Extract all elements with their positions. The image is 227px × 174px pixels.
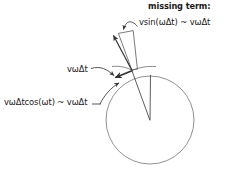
tangent-line-right (132, 66, 156, 70)
tangent-line-left (112, 66, 132, 70)
leader-to-tangent-vector (91, 67, 114, 75)
velocity-vector-arrow (114, 36, 133, 71)
diagram-canvas: missing term: vsin(ωΔt) ~ vωΔt vωΔt vωΔt… (0, 0, 227, 174)
vertical-radius-line (150, 75, 151, 120)
tangent-vector-label: vωΔt (67, 65, 88, 75)
missing-term-heading: missing term: (148, 2, 210, 11)
tangential-component-arrow (116, 71, 133, 78)
leader-to-sin-term (124, 22, 138, 30)
cos-term-label: vωΔtcos(ωt) ~ vωΔt (4, 98, 87, 108)
leader-to-cos-term (100, 83, 119, 104)
sin-term-label: vsin(ωΔt) ~ vωΔt (139, 18, 210, 28)
